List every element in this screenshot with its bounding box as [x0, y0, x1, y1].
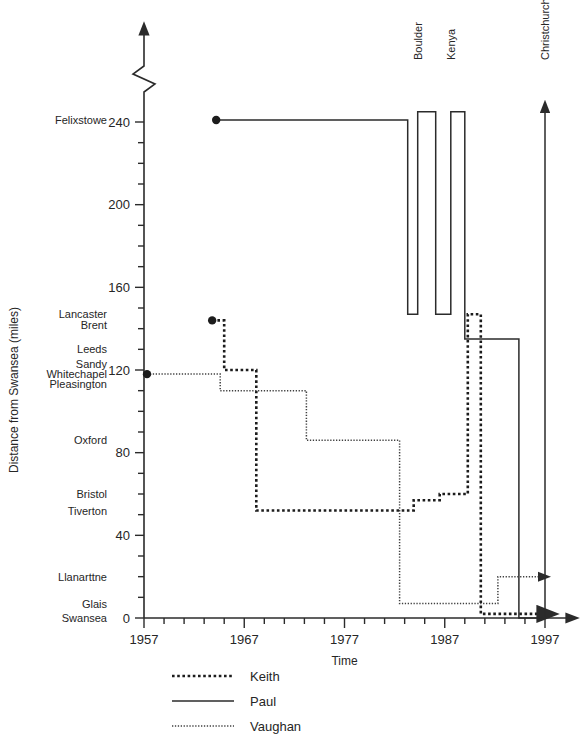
y-tick-label: 80 — [116, 445, 130, 460]
series-start-dot-paul — [212, 116, 220, 124]
place-label: Tiverton — [68, 505, 107, 517]
x-tick-label: 1977 — [330, 632, 359, 647]
x-axis-title: Time — [331, 654, 358, 668]
x-tick-label: 1987 — [430, 632, 459, 647]
y-tick-label: 40 — [116, 528, 130, 543]
destination-label: Boulder — [412, 22, 424, 60]
chart-figure: 0408012016020024019571967197719871997Tim… — [0, 0, 580, 739]
x-tick-label: 1967 — [230, 632, 259, 647]
chart-canvas: 0408012016020024019571967197719871997Tim… — [0, 0, 580, 739]
series-start-dot-vaughan — [143, 370, 151, 378]
y-tick-label: 120 — [108, 363, 130, 378]
place-label: Llanarttne — [58, 571, 107, 583]
place-label: Glais — [82, 598, 108, 610]
x-tick-label: 1997 — [531, 632, 560, 647]
legend-label-keith: Keith — [250, 669, 280, 684]
place-label: Oxford — [74, 434, 107, 446]
place-label: Felixstowe — [55, 114, 107, 126]
destination-label: Christchurch — [539, 0, 551, 60]
y-axis-title: Distance from Swansea (miles) — [7, 307, 21, 473]
series-start-dot-keith — [208, 316, 216, 324]
place-label: Leeds — [77, 343, 107, 355]
place-label: Bristol — [76, 488, 107, 500]
y-tick-label: 0 — [123, 611, 130, 626]
place-label: Brent — [81, 319, 107, 331]
series-line-paul — [216, 112, 545, 618]
legend-label-vaughan: Vaughan — [250, 719, 301, 734]
series-line-keith — [212, 314, 539, 614]
y-tick-label: 200 — [108, 197, 130, 212]
x-tick-label: 1957 — [130, 632, 159, 647]
destination-label: Kenya — [445, 28, 457, 60]
legend-label-paul: Paul — [250, 694, 276, 709]
place-label: Pleasington — [50, 378, 108, 390]
y-tick-label: 240 — [108, 115, 130, 130]
place-label: Swansea — [62, 612, 108, 624]
y-tick-label: 160 — [108, 280, 130, 295]
